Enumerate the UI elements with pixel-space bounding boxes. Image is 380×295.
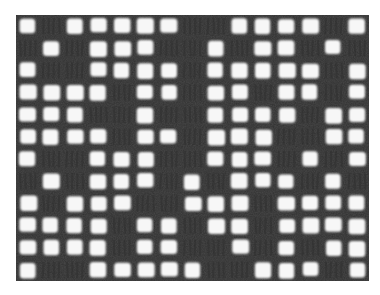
mesh-hole bbox=[67, 107, 83, 122]
mesh-hole bbox=[349, 241, 366, 257]
filled-block-stitch bbox=[336, 85, 337, 101]
filled-block-stitch bbox=[270, 85, 271, 101]
mesh-hole bbox=[232, 152, 248, 167]
mesh-hole bbox=[114, 174, 130, 189]
mesh-hole bbox=[278, 19, 294, 33]
filled-block-stitch bbox=[255, 195, 256, 211]
mesh-hole bbox=[302, 151, 317, 166]
mesh-hole bbox=[255, 18, 271, 34]
mesh-hole bbox=[20, 240, 37, 254]
mesh-hole bbox=[114, 63, 129, 79]
mesh-hole bbox=[303, 218, 320, 234]
filled-block-stitch bbox=[194, 40, 195, 56]
filled-block-stitch bbox=[312, 40, 313, 56]
mesh-hole bbox=[19, 108, 36, 122]
mesh-hole bbox=[43, 107, 59, 121]
mesh-hole bbox=[160, 19, 177, 33]
mesh-hole bbox=[137, 18, 154, 34]
mesh-hole bbox=[231, 63, 247, 79]
filled-block-stitch bbox=[312, 107, 313, 123]
mesh-hole bbox=[67, 19, 83, 35]
filled-block-stitch bbox=[260, 218, 261, 234]
mesh-hole bbox=[232, 85, 248, 100]
filled-block-stitch bbox=[82, 62, 83, 78]
filled-block-stitch bbox=[35, 173, 36, 189]
mesh-hole bbox=[67, 85, 84, 100]
filled-block-stitch bbox=[208, 18, 209, 34]
mesh-hole bbox=[231, 173, 248, 189]
mesh-hole bbox=[254, 152, 271, 166]
mesh-hole bbox=[42, 218, 58, 233]
mesh-hole bbox=[19, 151, 35, 166]
mesh-hole bbox=[208, 219, 225, 234]
filled-block-stitch bbox=[72, 40, 73, 56]
filled-block-stitch bbox=[67, 173, 68, 189]
mesh-hole bbox=[325, 40, 341, 54]
filled-block-stitch bbox=[199, 62, 200, 78]
mesh-hole bbox=[231, 219, 248, 234]
filled-block-stitch bbox=[278, 129, 279, 145]
mesh-hole bbox=[160, 129, 176, 143]
mesh-hole bbox=[256, 130, 273, 146]
filled-block-stitch bbox=[91, 107, 92, 123]
mesh-hole bbox=[20, 19, 36, 34]
filled-block-stitch bbox=[142, 195, 143, 211]
filled-block-stitch bbox=[184, 62, 185, 78]
filled-block-stitch bbox=[194, 62, 195, 78]
mesh-hole bbox=[185, 197, 202, 211]
mesh-hole bbox=[19, 218, 36, 232]
mesh-hole bbox=[208, 196, 225, 212]
filled-block-stitch bbox=[184, 240, 185, 256]
mesh-hole bbox=[137, 40, 153, 55]
mesh-hole bbox=[114, 263, 131, 277]
mesh-hole bbox=[325, 196, 341, 210]
mesh-hole bbox=[278, 175, 293, 189]
filled-block-stitch bbox=[129, 107, 130, 123]
filled-block-stitch bbox=[67, 40, 68, 56]
mesh-hole bbox=[113, 152, 129, 167]
filled-block-stitch bbox=[330, 262, 331, 278]
filled-block-stitch bbox=[223, 240, 224, 256]
mesh-hole bbox=[44, 240, 60, 256]
filled-block-stitch bbox=[341, 85, 342, 101]
mesh-hole bbox=[161, 218, 177, 234]
filled-block-stitch bbox=[119, 85, 120, 101]
mesh-hole bbox=[255, 173, 270, 187]
mesh-hole bbox=[349, 152, 366, 166]
filled-block-stitch bbox=[66, 151, 67, 167]
filled-block-stitch bbox=[213, 240, 214, 256]
mesh-hole bbox=[114, 196, 131, 211]
filled-block-stitch bbox=[77, 40, 78, 56]
filled-block-stitch bbox=[195, 85, 196, 101]
filled-block-stitch bbox=[195, 107, 196, 123]
crochet-fabric bbox=[16, 15, 369, 281]
mesh-hole bbox=[302, 64, 319, 79]
filled-block-stitch bbox=[161, 40, 162, 56]
mesh-hole bbox=[325, 108, 342, 124]
filled-block-stitch bbox=[288, 151, 289, 167]
mesh-hole bbox=[208, 130, 225, 146]
filled-block-stitch bbox=[355, 40, 356, 56]
filled-block-stitch bbox=[161, 195, 162, 211]
filled-block-stitch bbox=[185, 218, 186, 234]
filled-block-stitch bbox=[77, 151, 78, 167]
mesh-hole bbox=[162, 85, 177, 100]
mesh-hole bbox=[278, 196, 295, 210]
filled-block-stitch bbox=[261, 195, 262, 211]
mesh-hole bbox=[349, 195, 365, 210]
filled-block-stitch bbox=[53, 18, 54, 34]
filled-block-stitch bbox=[208, 262, 209, 278]
filled-block-stitch bbox=[106, 107, 107, 123]
filled-block-stitch bbox=[318, 240, 319, 256]
mesh-hole bbox=[90, 85, 106, 101]
filled-block-stitch bbox=[77, 62, 78, 78]
mesh-hole bbox=[20, 196, 37, 211]
filled-block-stitch bbox=[49, 151, 50, 167]
mesh-hole bbox=[42, 129, 58, 145]
filled-block-stitch bbox=[43, 262, 44, 278]
filled-block-stitch bbox=[189, 129, 190, 145]
mesh-hole bbox=[207, 152, 223, 166]
filled-block-stitch bbox=[190, 218, 191, 234]
mesh-hole bbox=[67, 240, 83, 255]
filled-block-stitch bbox=[317, 173, 318, 189]
